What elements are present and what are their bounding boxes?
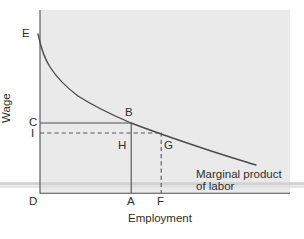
- curve-caption-line2: of labor: [196, 180, 234, 193]
- diagram-svg: [0, 0, 304, 239]
- paper-texture-overlay: [40, 10, 290, 193]
- figure-container: Wage Employment E C I D A F B H G Margin…: [0, 0, 304, 239]
- point-label-d: D: [29, 195, 37, 208]
- point-label-a: A: [127, 195, 135, 208]
- point-label-e: E: [22, 27, 30, 40]
- point-label-b: B: [125, 106, 133, 119]
- point-label-i: I: [31, 127, 34, 140]
- x-axis-title: Employment: [128, 212, 192, 225]
- point-label-f: F: [157, 195, 164, 208]
- y-axis-title: Wage: [0, 93, 13, 123]
- curve-caption-line1: Marginal product: [196, 168, 282, 181]
- scan-artifact-band-secondary: [0, 186, 304, 188]
- point-label-h: H: [118, 139, 126, 152]
- point-label-g: G: [164, 139, 173, 152]
